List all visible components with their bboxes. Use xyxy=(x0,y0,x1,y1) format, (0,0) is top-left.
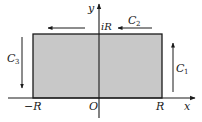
origin-label: O xyxy=(89,100,98,113)
shaded-region xyxy=(33,34,162,98)
neg-r-label: −R xyxy=(24,100,42,113)
y-axis-label: y xyxy=(87,2,95,15)
svg-text:2: 2 xyxy=(136,20,140,28)
svg-text:1: 1 xyxy=(184,68,188,76)
svg-text:3: 3 xyxy=(15,58,19,66)
pos-r-label: R xyxy=(155,100,164,113)
c2-label: C 2 xyxy=(128,14,140,28)
c3-label: C 3 xyxy=(7,52,19,66)
x-axis-label: x xyxy=(184,100,191,113)
contour-diagram: y x O −R R iR C 2 C 3 C 1 xyxy=(0,0,202,122)
c1-label: C 1 xyxy=(176,62,188,76)
ir-label: iR xyxy=(101,21,112,32)
